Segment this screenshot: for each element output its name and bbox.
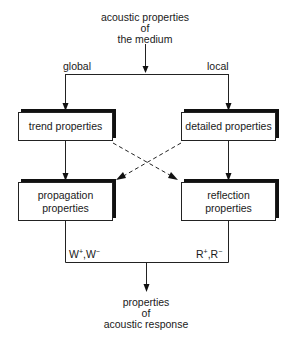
source-label: acoustic properties of the medium — [95, 12, 195, 45]
reflection-line-2: properties — [205, 202, 252, 215]
w-sup-minus: − — [96, 248, 100, 255]
propagation-properties-box: propagation properties — [18, 182, 113, 221]
local-label: local — [207, 61, 229, 72]
result-label: properties of acoustic response — [96, 297, 196, 330]
trend-properties-box: trend properties — [18, 112, 113, 141]
propagation-line-1: propagation — [38, 189, 93, 202]
r-plus-minus-label: R+,R− — [196, 249, 222, 260]
propagation-line-2: properties — [38, 202, 93, 215]
result-line-3: acoustic response — [96, 319, 196, 330]
reflection-line-1: reflection — [205, 189, 252, 202]
detailed-properties-label: detailed properties — [185, 120, 271, 133]
connector-lines — [0, 0, 288, 341]
r-base-1: R — [196, 248, 204, 260]
w-base-2: W — [86, 248, 96, 260]
trend-properties-label: trend properties — [29, 120, 103, 133]
r-sup-minus: − — [218, 248, 222, 255]
detailed-properties-box: detailed properties — [181, 112, 276, 141]
w-plus-minus-label: W+,W− — [69, 249, 100, 260]
global-label: global — [63, 61, 91, 72]
reflection-properties-box: reflection properties — [181, 182, 276, 221]
w-base-1: W — [69, 248, 79, 260]
source-line-3: the medium — [95, 34, 195, 45]
